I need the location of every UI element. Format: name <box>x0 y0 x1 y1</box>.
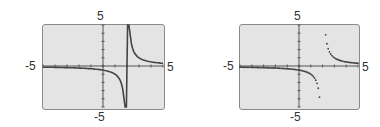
y-max-label: 5 <box>97 10 104 22</box>
y-max-label: 5 <box>294 10 301 22</box>
graph-panel-dot: 5 -5 -5 5 <box>190 0 380 127</box>
x-max-label: 5 <box>362 61 369 73</box>
plot-dot-mode <box>190 0 380 127</box>
x-min-label: -5 <box>223 60 234 72</box>
x-min-label: -5 <box>25 60 36 72</box>
x-max-label: 5 <box>167 61 174 73</box>
graph-panel-connected: 5 -5 -5 5 <box>0 0 190 127</box>
y-min-label: -5 <box>94 111 105 123</box>
y-min-label: -5 <box>290 111 301 123</box>
